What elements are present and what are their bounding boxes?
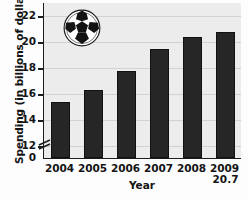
x-axis-tick-label: 2009	[205, 162, 245, 174]
bar-chart-figure: Spending (in billions of dollars) 15.320…	[0, 0, 248, 199]
y-axis-zero-label: 0	[12, 151, 36, 163]
y-axis-tick	[38, 16, 43, 18]
x-axis-title: Year	[43, 179, 241, 191]
y-axis-tick-label: 18	[12, 61, 36, 73]
bar	[84, 90, 104, 158]
bar-series: 15.320.7	[44, 3, 241, 158]
y-axis-tick	[38, 146, 43, 148]
y-axis-tick	[38, 120, 43, 122]
y-axis-tick-label: 12	[12, 139, 36, 151]
y-axis-tick-label: 20	[12, 35, 36, 47]
bar	[117, 71, 137, 158]
bar	[150, 49, 170, 158]
bar	[183, 37, 203, 158]
y-axis-tick	[38, 68, 43, 70]
plot-area: 15.320.7	[43, 3, 241, 159]
bar	[51, 102, 71, 158]
y-axis-tick-label: 16	[12, 87, 36, 99]
y-axis-tick-label: 14	[12, 113, 36, 125]
y-axis-tick-label: 22	[12, 9, 36, 21]
y-axis-tick	[38, 94, 43, 96]
bar	[216, 32, 236, 158]
y-axis-tick	[38, 42, 43, 44]
